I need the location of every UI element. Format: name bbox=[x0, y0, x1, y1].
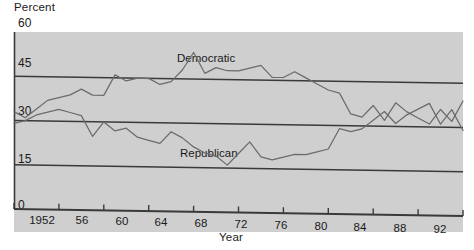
chart-svg bbox=[0, 0, 474, 250]
gridline-45 bbox=[14, 76, 463, 83]
series-lines bbox=[14, 53, 463, 166]
gridline-15 bbox=[14, 165, 463, 172]
series-line-republican bbox=[14, 103, 463, 165]
chart-container: Percent Year 60 45 30 15 0 1952 56 60 64… bbox=[0, 0, 474, 250]
series-line-democratic bbox=[14, 53, 463, 125]
